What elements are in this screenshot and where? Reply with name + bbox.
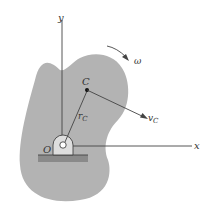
pin-hole xyxy=(60,142,66,148)
angular-velocity-label: ω xyxy=(134,56,142,66)
rotation-diagram: y x O C rC vC ω xyxy=(0,0,209,215)
point-c-label: C xyxy=(82,76,90,87)
velocity-vector-label: vC xyxy=(148,113,159,125)
ground-support xyxy=(38,155,88,162)
origin-label: O xyxy=(43,144,51,155)
velocity-arrowhead xyxy=(140,113,148,119)
angular-velocity-arrowhead xyxy=(122,54,129,61)
y-axis-label: y xyxy=(57,12,64,23)
x-axis-label: x xyxy=(194,140,200,151)
angular-velocity-arrow xyxy=(107,46,126,57)
rigid-body xyxy=(20,54,129,201)
